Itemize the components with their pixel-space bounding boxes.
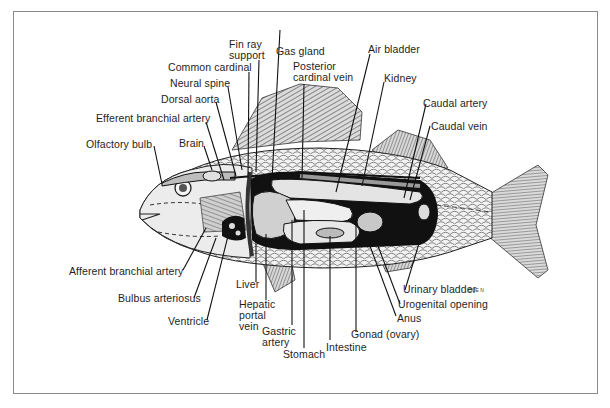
label-fin-ray-support-line2: support [229, 49, 265, 61]
label-caudal-artery: Caudal artery [423, 97, 488, 109]
label-anus: Anus [397, 312, 421, 324]
brain-lobe [203, 171, 221, 181]
perch-anatomy-diagram: OUE N Fin [0, 0, 610, 408]
label-stomach: Stomach [283, 348, 325, 360]
label-brain: Brain [179, 137, 204, 149]
label-gas-gland: Gas gland [276, 45, 325, 57]
label-efferent-branchial-artery: Efferent branchial artery [96, 112, 211, 124]
label-urinary-bladder: Urinary bladder [403, 283, 477, 295]
spiny-dorsal-fin [232, 84, 362, 150]
label-ventricle: Ventricle [168, 315, 209, 327]
label-common-cardinal: Common cardinal [168, 61, 252, 73]
label-neural-spine: Neural spine [170, 77, 230, 89]
label-intestine: Intestine [326, 341, 367, 353]
label-air-bladder: Air bladder [368, 43, 420, 55]
label-kidney: Kidney [384, 72, 417, 84]
label-bulbus-arteriosus: Bulbus arteriosus [118, 292, 201, 304]
label-olfactory-bulb: Olfactory bulb [86, 138, 152, 150]
label-posterior-cardinal-vein-line2: cardinal vein [293, 71, 353, 83]
label-hepatic-portal-vein-line3: vein [239, 320, 259, 332]
bulbus-chamber [236, 231, 241, 236]
label-urogenital-opening: Urogenital opening [398, 298, 488, 310]
caudal-fin [488, 165, 548, 278]
label-liver: Liver [236, 278, 260, 290]
label-caudal-vein: Caudal vein [431, 120, 488, 132]
ventricle-chamber [229, 223, 235, 229]
label-afferent-branchial-artery: Afferent branchial artery [69, 265, 184, 277]
eye-pupil [179, 184, 187, 192]
label-dorsal-aorta: Dorsal aorta [161, 93, 219, 105]
urinary-bladder [418, 204, 430, 220]
gonad-ovary [357, 212, 383, 232]
label-gastric-artery-line2: artery [262, 336, 290, 348]
label-gonad-ovary: Gonad (ovary) [351, 328, 419, 340]
